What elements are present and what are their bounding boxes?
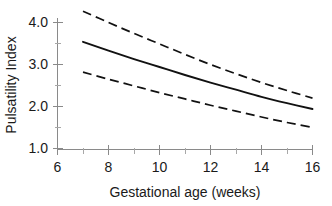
plot-area: 4.0 3.0 2.0 1.0 6 8 10 12 14 16 Gestatio… <box>0 0 332 206</box>
y-tick-label-4: 4.0 <box>29 14 49 30</box>
x-tick-label-12: 12 <box>203 159 219 175</box>
x-minor-ticks <box>83 148 287 154</box>
x-tick-label-10: 10 <box>152 159 168 175</box>
y-axis-title: Pulsatility Index <box>3 36 19 133</box>
upper-confidence-curve <box>83 11 313 98</box>
x-tick-label-6: 6 <box>54 159 62 175</box>
x-tick-label-8: 8 <box>105 159 113 175</box>
y-tick-label-2: 2.0 <box>29 98 49 114</box>
x-tick-label-14: 14 <box>254 159 270 175</box>
y-tick-label-3: 3.0 <box>29 56 49 72</box>
chart-figure: 4.0 3.0 2.0 1.0 6 8 10 12 14 16 Gestatio… <box>0 0 332 206</box>
lower-confidence-curve <box>83 72 313 127</box>
x-axis-title: Gestational age (weeks) <box>110 184 261 200</box>
x-tick-label-16: 16 <box>305 159 321 175</box>
y-tick-label-1: 1.0 <box>29 140 49 156</box>
mean-curve <box>83 42 313 109</box>
